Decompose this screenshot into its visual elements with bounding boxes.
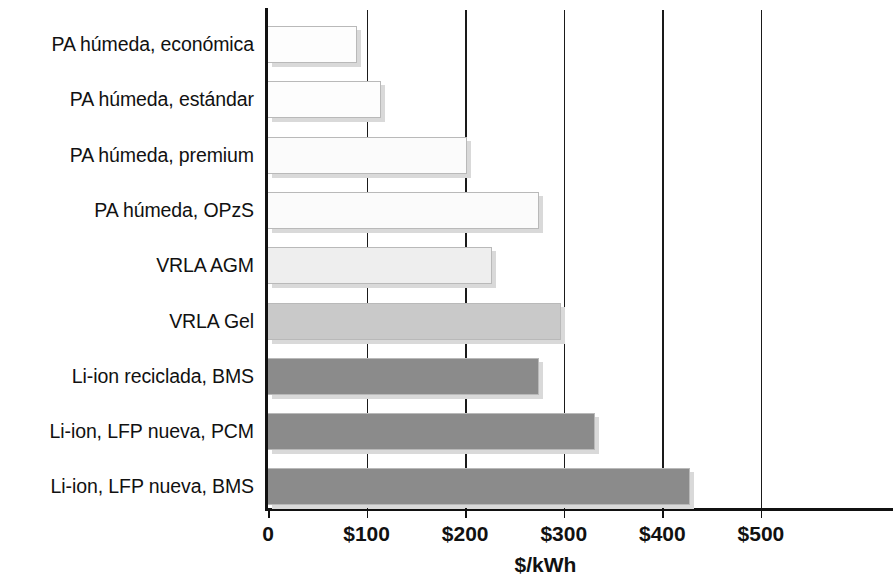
axis-tick xyxy=(564,508,566,518)
axis-tick xyxy=(662,508,664,518)
category-label: Li-ion reciclada, BMS xyxy=(72,358,254,395)
axis-tick xyxy=(465,508,467,518)
bar xyxy=(268,413,595,450)
bar xyxy=(268,137,467,174)
bar xyxy=(268,358,539,395)
category-label: VRLA Gel xyxy=(169,303,254,340)
bar xyxy=(268,81,381,118)
bar xyxy=(268,468,690,505)
axis-tick-label: 0 xyxy=(262,522,274,546)
axis-tick-label: $100 xyxy=(343,522,390,546)
axis-tick-label: $500 xyxy=(738,522,785,546)
bar xyxy=(268,192,539,229)
plot-area: 0$100$200$300$400$500 $/kWh xyxy=(268,10,823,508)
axis-tick xyxy=(367,508,369,518)
category-label: PA húmeda, premium xyxy=(70,137,254,174)
category-label: Li-ion, LFP nueva, PCM xyxy=(50,413,254,450)
axis-tick xyxy=(268,508,270,518)
gridline xyxy=(662,10,664,508)
category-label: PA húmeda, OPzS xyxy=(94,192,254,229)
category-label: VRLA AGM xyxy=(156,247,254,284)
x-axis-title: $/kWh xyxy=(268,553,823,577)
axis-tick-label: $300 xyxy=(540,522,587,546)
category-label: PA húmeda, estándar xyxy=(70,81,254,118)
gridline xyxy=(761,10,763,508)
bar xyxy=(268,247,492,284)
category-label: PA húmeda, económica xyxy=(51,26,254,63)
category-axis-labels: PA húmeda, económicaPA húmeda, estándarP… xyxy=(0,10,262,508)
axis-tick-label: $200 xyxy=(442,522,489,546)
axis-tick xyxy=(761,508,763,518)
bar xyxy=(268,26,357,63)
axis-tick-label: $400 xyxy=(639,522,686,546)
category-label: Li-ion, LFP nueva, BMS xyxy=(51,468,254,505)
bar xyxy=(268,303,561,340)
